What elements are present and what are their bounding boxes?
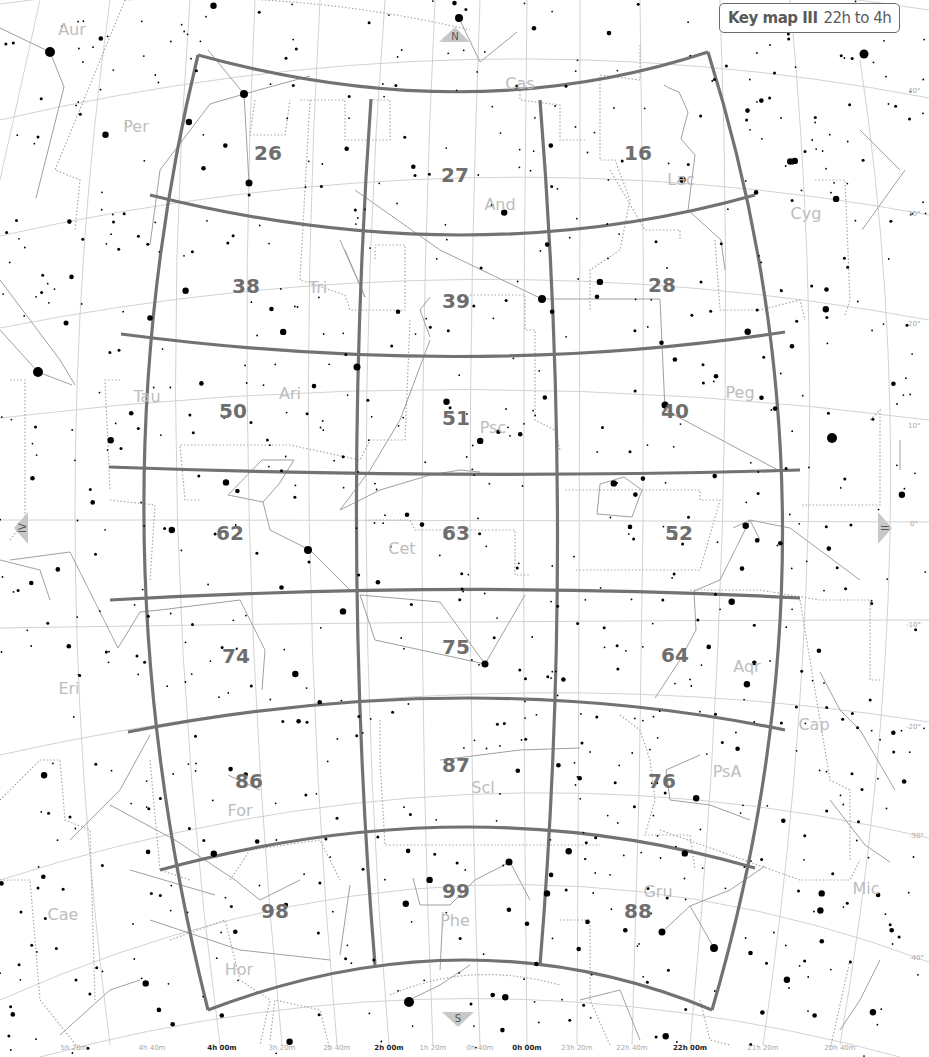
declination-label: -10° [906, 621, 921, 629]
chart-number: 27 [441, 163, 469, 187]
svg-text:N: N [451, 31, 458, 42]
chart-number: 86 [235, 769, 263, 793]
chart-number: 64 [661, 643, 689, 667]
chart-number: 28 [648, 273, 676, 297]
ra-label: 22h 00m [673, 1044, 707, 1052]
constellation-label: Mic [852, 879, 879, 898]
key-map-badge: Key map III 22h to 4h [719, 3, 900, 33]
constellation-label: Lac [667, 170, 695, 189]
ra-label: 4h 40m [139, 1044, 166, 1052]
chart-number: 74 [222, 644, 250, 668]
constellation-label: Tau [132, 387, 160, 406]
declination-label: -20° [906, 723, 921, 731]
svg-text:II: II [879, 525, 890, 531]
constellation-label: Cap [798, 715, 829, 734]
constellation-label: Aqr [733, 657, 761, 676]
ra-label: 23h 20m [561, 1044, 592, 1052]
chart-number: 75 [442, 635, 470, 659]
declination-label: 0° [910, 520, 918, 528]
constellation-label: Scl [471, 778, 494, 797]
constellation-label: Hor [225, 960, 254, 979]
ra-label: 1h 20m [420, 1044, 447, 1052]
declination-label: 30° [908, 210, 920, 218]
chart-number: 63 [442, 521, 470, 545]
constellation-label: Psc [480, 418, 507, 437]
south-marker: S [442, 1012, 474, 1027]
chart-number: 62 [216, 521, 244, 545]
constellation-label: For [228, 801, 253, 820]
chart-number: 76 [648, 769, 676, 793]
ra-label: 4h 00m [207, 1044, 236, 1052]
chart-number: 87 [442, 753, 470, 777]
ra-label: 5h 20m [61, 1044, 88, 1052]
constellation-label: Phe [440, 911, 470, 930]
key-map-title: Key map III [728, 9, 818, 27]
chart-number: 50 [219, 399, 247, 423]
svg-text:IV: IV [17, 523, 28, 533]
chart-number: 40 [661, 399, 689, 423]
chart-number: 99 [442, 879, 470, 903]
constellation-label: Cae [48, 905, 79, 924]
star-chart: N S IV II AurPerCasAndLacCygTriTauAriPsc… [0, 0, 929, 1057]
ra-label: 3h 20m [269, 1044, 296, 1052]
constellation-label: Eri [58, 679, 79, 698]
declination-label: -40° [909, 954, 924, 962]
east-marker: IV [14, 512, 28, 544]
ra-label: 0h 00m [512, 1044, 541, 1052]
constellation-label: Per [123, 117, 149, 136]
declination-label: 10° [908, 422, 920, 430]
constellation-label: Cet [388, 539, 415, 558]
constellation-label: PsA [713, 762, 742, 781]
ra-label: 2h 00m [374, 1044, 403, 1052]
ra-label: 21h 20m [747, 1044, 778, 1052]
chart-number: 52 [665, 521, 693, 545]
north-marker: N [439, 27, 470, 42]
chart-number: 39 [442, 289, 470, 313]
chart-number: 16 [624, 141, 652, 165]
chart-number: 51 [442, 406, 470, 430]
declination-label: -30° [909, 832, 924, 840]
svg-text:S: S [455, 1013, 461, 1024]
constellation-label: Peg [725, 383, 754, 402]
constellation-label: Tri [308, 278, 327, 297]
constellation-label: Cas [505, 74, 534, 93]
chart-number: 26 [254, 141, 282, 165]
declination-label: 20° [908, 320, 920, 328]
constellation-label: Cyg [791, 204, 822, 223]
chart-number: 38 [232, 274, 260, 298]
ra-label: 22h 40m [616, 1044, 647, 1052]
constellation-label: Aur [58, 20, 86, 39]
constellation-label: Ari [279, 384, 301, 403]
chart-number: 88 [624, 899, 652, 923]
constellation-label: And [484, 195, 515, 214]
labels-layer: AurPerCasAndLacCygTriTauAriPscPegCetEriA… [48, 20, 924, 1052]
chart-number: 98 [261, 899, 289, 923]
ra-label: 2h 40m [324, 1044, 351, 1052]
key-map-range: 22h to 4h [824, 9, 892, 27]
declination-label: 40° [908, 87, 920, 95]
ra-label: 20h 40m [824, 1044, 855, 1052]
ra-label: 0h 40m [467, 1044, 494, 1052]
